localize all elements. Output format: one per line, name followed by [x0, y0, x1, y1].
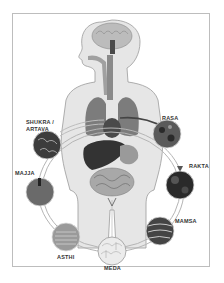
dhatu-label-shukra: SHUKRA / ARTAVA — [26, 119, 54, 133]
dhatu-rasa-circle — [153, 120, 181, 148]
anatomy-illustration — [0, 0, 224, 283]
dhatu-asthi-circle — [52, 223, 80, 251]
dhatu-label-rasa: RASA — [162, 115, 178, 122]
dhatu-shukra-circle — [33, 131, 61, 159]
dhatu-label-majja: MAJJA — [15, 170, 35, 177]
dhatu-rakta-circle — [166, 171, 194, 199]
dhatu-label-rakta: RAKTA — [189, 163, 209, 170]
dhatu-label-shukra-line2: ARTAVA — [26, 126, 54, 133]
dhatu-label-shukra-line1: SHUKRA / — [26, 119, 54, 126]
dhatu-label-meda: MEDA — [104, 265, 121, 272]
intestines-icon — [90, 168, 134, 196]
dhatu-label-asthi: ASTHI — [57, 254, 75, 261]
dhatu-meda-circle — [98, 237, 126, 265]
dhatu-label-mamsa: MAMSA — [175, 218, 197, 225]
